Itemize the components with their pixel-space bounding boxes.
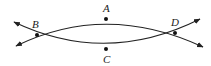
point-b-label: B — [32, 18, 39, 30]
point-c-label: C — [103, 53, 111, 65]
point-b: B — [32, 18, 39, 37]
point-d: D — [170, 16, 179, 35]
point-d-label: D — [170, 16, 179, 28]
point-a-dot — [104, 17, 108, 21]
point-d-dot — [173, 31, 177, 35]
point-a: A — [102, 2, 110, 21]
point-b-dot — [35, 33, 39, 37]
point-c: C — [103, 47, 111, 65]
point-c-dot — [104, 47, 108, 51]
point-a-label: A — [102, 2, 110, 14]
geometry-diagram: A B C D — [0, 0, 211, 66]
